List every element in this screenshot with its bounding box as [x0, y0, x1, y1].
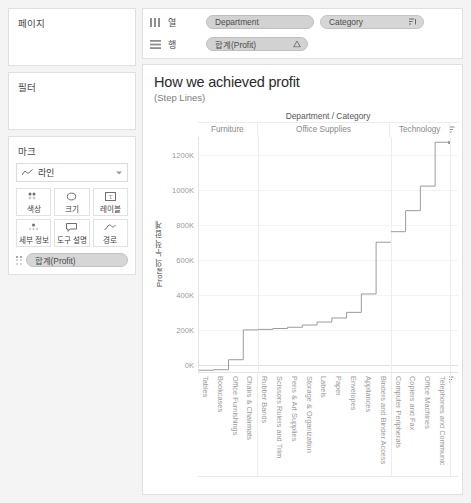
panel-header-furniture[interactable]: Furniture: [198, 123, 257, 137]
x-tick-label[interactable]: Storage & Organization: [305, 376, 314, 453]
y-tick-label: 1000K: [172, 185, 194, 194]
y-tick-label: 800K: [176, 220, 194, 229]
y-tick-label: 400K: [176, 290, 194, 299]
marks-card-title: 마크: [9, 137, 135, 163]
y-tick-label: 1200K: [172, 150, 194, 159]
x-axis[interactable]: TablesBookcasesOffice FurnishingsChairs …: [198, 372, 458, 490]
y-tick-label: 200K: [176, 325, 194, 334]
table-calc-delta-icon[interactable]: [293, 41, 301, 48]
pill-category[interactable]: Category: [320, 15, 424, 29]
marks-button-label: 도구 설명: [57, 234, 87, 245]
mark-type-label: 라인: [38, 166, 54, 179]
filters-card-title: 필터: [9, 73, 135, 99]
color-icon: [28, 191, 39, 202]
x-panel-separator: [450, 373, 451, 476]
marks-buttons: 색상 크기 T 레이블: [16, 188, 128, 247]
step-lines: [199, 137, 458, 372]
y-tick-label: 600K: [176, 255, 194, 264]
columns-shelf[interactable]: 열 Department Category: [149, 13, 456, 31]
pill-sum-profit-label: 합계(Profit): [215, 38, 256, 50]
x-tick-label[interactable]: Tables: [201, 376, 210, 397]
x-tick-label[interactable]: Pens & Art Supplies: [290, 376, 299, 441]
x-axis-spacer: [154, 372, 198, 490]
left-sidebar: 페이지 필터 마크 라인: [8, 8, 136, 495]
size-icon: [66, 191, 77, 202]
y-tick-label: 0K: [185, 360, 194, 369]
step-line-technology: [391, 142, 450, 231]
detail-dots-icon: [16, 256, 22, 265]
header-spacer: [154, 111, 198, 137]
marks-button-color[interactable]: 색상: [16, 188, 51, 216]
column-header-title: Department / Category: [198, 111, 458, 122]
pill-sum-profit[interactable]: 합계(Profit): [206, 37, 308, 51]
plot-area[interactable]: [198, 137, 458, 372]
x-tick-label[interactable]: Computer Peripherals: [394, 376, 403, 448]
pages-drop-zone[interactable]: [9, 35, 135, 65]
rows-shelf-label: 행: [168, 38, 200, 51]
step-line-furniture: [199, 330, 258, 370]
x-axis-wrapper: TablesBookcasesOffice FurnishingsChairs …: [154, 372, 458, 490]
x-tick-label[interactable]: Copiers and Fax: [408, 376, 417, 430]
marks-button-label: 크기: [65, 203, 79, 214]
x-tick-label[interactable]: Office Furnishings: [231, 376, 240, 435]
mark-type-dropdown[interactable]: 라인: [16, 163, 128, 182]
filters-drop-zone[interactable]: [9, 99, 135, 129]
columns-icon: [149, 18, 162, 27]
x-tick-label[interactable]: Labels: [319, 376, 328, 398]
panel-header-office-supplies[interactable]: Office Supplies: [257, 123, 390, 137]
x-panel-separator: [391, 373, 392, 476]
marks-button-size[interactable]: 크기: [54, 188, 89, 216]
tableau-worksheet: 페이지 필터 마크 라인: [0, 0, 471, 503]
step-line-office-supplies: [258, 242, 391, 329]
path-icon: [104, 222, 116, 233]
viz-canvas[interactable]: How we achieved profit (Step Lines) Depa…: [142, 64, 463, 495]
marks-pill-profit[interactable]: 합계(Profit): [26, 253, 129, 267]
x-tick-label[interactable]: Paper: [334, 376, 343, 396]
line-mark-icon: [22, 169, 33, 176]
pill-category-label: Category: [329, 17, 363, 27]
rows-shelf[interactable]: 행 합계(Profit): [149, 35, 456, 53]
columns-shelf-label: 열: [168, 16, 200, 29]
pages-card: 페이지: [8, 8, 136, 66]
pages-card-title: 페이지: [9, 9, 135, 35]
marks-button-label: 색상: [27, 203, 41, 214]
x-tick-label[interactable]: Telephones and Communic: [438, 376, 447, 466]
pill-department[interactable]: Department: [206, 15, 314, 29]
x-tick-label[interactable]: Appliances: [364, 376, 373, 412]
marks-button-tooltip[interactable]: 도구 설명: [54, 219, 89, 247]
detail-icon: [28, 222, 39, 233]
x-tick-label[interactable]: Scissors Rulers and Trim: [275, 376, 284, 458]
marks-button-path[interactable]: 경로: [93, 219, 128, 247]
x-axis-rule: [198, 476, 458, 477]
chevron-down-icon: [116, 171, 122, 174]
tooltip-icon: [66, 222, 77, 233]
svg-text:T: T: [108, 193, 112, 199]
y-axis[interactable]: Profit의 누적 합계 0K200K400K600K800K1000K120…: [154, 137, 198, 372]
x-tick-label[interactable]: Envelopes: [349, 376, 358, 411]
page-subtitle: (Step Lines): [154, 92, 458, 103]
x-tick-label[interactable]: Bookcases: [216, 376, 225, 412]
x-tick-label[interactable]: Binders and Binder Access: [379, 376, 388, 464]
marks-button-detail[interactable]: 세부 정보: [16, 219, 51, 247]
sort-descending-icon[interactable]: [409, 18, 417, 26]
marks-button-label[interactable]: T 레이블: [93, 188, 128, 216]
column-header-group: Department / Category FurnitureOffice Su…: [198, 111, 458, 137]
label-icon: T: [105, 191, 116, 202]
marks-button-label: 레이블: [100, 203, 121, 214]
panel-header-tail: [449, 123, 458, 137]
panel-header-technology[interactable]: Technology: [389, 123, 449, 137]
page-title: How we achieved profit: [154, 74, 458, 90]
marks-pill-row: 합계(Profit): [16, 253, 128, 267]
marks-button-label: 경로: [103, 234, 117, 245]
plot-wrapper: Profit의 누적 합계 0K200K400K600K800K1000K120…: [154, 137, 458, 372]
x-tick-label[interactable]: Rubber Bands: [260, 376, 269, 423]
y-axis-title: Profit의 누적 합계: [154, 137, 165, 372]
panel-header-cells: FurnitureOffice SuppliesTechnology: [198, 122, 458, 137]
x-tick-label[interactable]: Chairs & Chairmats: [245, 376, 254, 440]
x-panel-separator: [257, 373, 258, 476]
marks-card: 마크 라인 색상: [8, 136, 136, 275]
marks-button-label: 세부 정보: [19, 234, 49, 245]
column-headers: Department / Category FurnitureOffice Su…: [154, 111, 458, 137]
filters-card: 필터: [8, 72, 136, 130]
x-tick-label[interactable]: Office Machines: [423, 376, 432, 429]
